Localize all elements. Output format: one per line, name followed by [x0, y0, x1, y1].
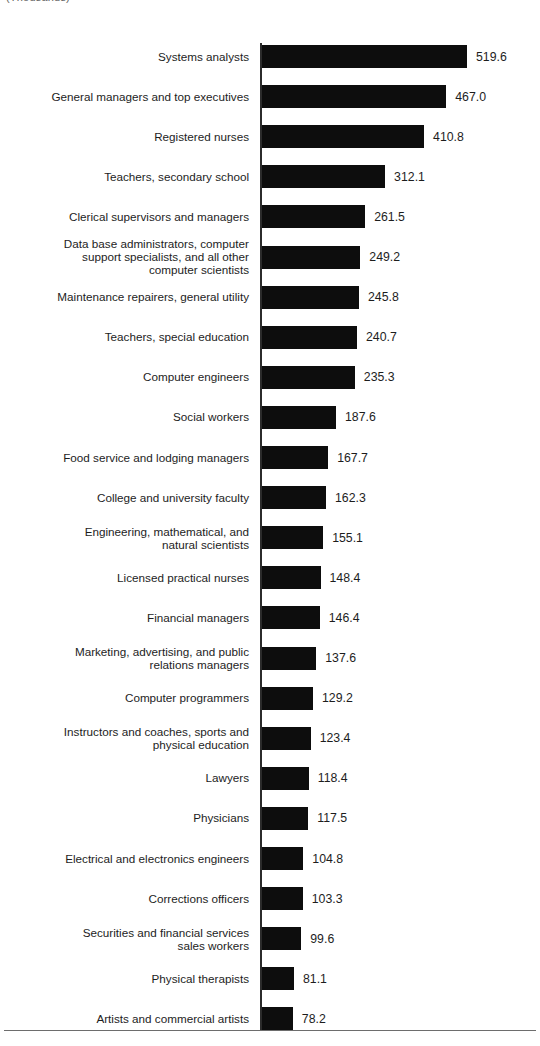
bar-row: Securities and financial services sales …: [0, 927, 540, 950]
category-label: Lawyers: [13, 772, 249, 785]
bar-value-label: 118.4: [318, 771, 348, 785]
category-label: Physical therapists: [13, 972, 249, 985]
bar-row: Social workers187.6: [0, 406, 540, 429]
bar-value-label: 103.3: [312, 892, 343, 906]
bar-value-label: 249.2: [369, 250, 400, 264]
bar: [262, 647, 316, 670]
bar-row: Engineering, mathematical, and natural s…: [0, 526, 540, 549]
bar-value-label: 123.4: [320, 731, 351, 745]
category-label: Licensed practical nurses: [13, 571, 249, 584]
bar: [262, 687, 313, 710]
bar-value-label: 235.3: [364, 370, 395, 384]
bar-row: Systems analysts519.6: [0, 45, 540, 68]
bar-row: Licensed practical nurses148.4: [0, 566, 540, 589]
bar-row: Instructors and coaches, sports and phys…: [0, 727, 540, 750]
bottom-divider: [4, 1030, 536, 1031]
bar-row: Corrections officers103.3: [0, 887, 540, 910]
category-label: Artists and commercial artists: [13, 1012, 249, 1025]
bar-value-label: 78.2: [302, 1012, 326, 1026]
bar-value-label: 410.8: [433, 130, 464, 144]
category-label: General managers and top executives: [13, 90, 249, 103]
category-label: Physicians: [13, 812, 249, 825]
category-label: Computer programmers: [13, 691, 249, 704]
bar-row: Registered nurses410.8: [0, 125, 540, 148]
bar-value-label: 104.8: [312, 852, 343, 866]
bar-row: Physical therapists81.1: [0, 967, 540, 990]
category-label: Teachers, special education: [13, 331, 249, 344]
bar-value-label: 162.3: [335, 491, 366, 505]
bar: [262, 366, 355, 389]
category-label: Computer engineers: [13, 371, 249, 384]
bar: [262, 526, 323, 549]
bar-row: Marketing, advertising, and public relat…: [0, 647, 540, 670]
bar: [262, 727, 311, 750]
bar: [262, 967, 294, 990]
category-label: Registered nurses: [13, 130, 249, 143]
bar: [262, 45, 467, 68]
category-label: Social workers: [13, 411, 249, 424]
category-label: Clerical supervisors and managers: [13, 210, 249, 223]
category-label: Teachers, secondary school: [13, 170, 249, 183]
bar-row: Maintenance repairers, general utility24…: [0, 286, 540, 309]
bar-row: College and university faculty162.3: [0, 486, 540, 509]
bar: [262, 1007, 293, 1030]
bar-row: General managers and top executives467.0: [0, 85, 540, 108]
bar-value-label: 81.1: [303, 972, 327, 986]
bar-row: Teachers, secondary school312.1: [0, 165, 540, 188]
bar-row: Data base administrators, computer suppo…: [0, 246, 540, 269]
bar: [262, 767, 309, 790]
bar-row: Physicians117.5: [0, 807, 540, 830]
category-label: Systems analysts: [13, 50, 249, 63]
bar-value-label: 245.8: [368, 290, 399, 304]
category-label: Electrical and electronics engineers: [13, 852, 249, 865]
bar: [262, 847, 303, 870]
bar: [262, 125, 424, 148]
category-label: Financial managers: [13, 611, 249, 624]
bar: [262, 446, 328, 469]
category-label: Securities and financial services sales …: [13, 925, 249, 951]
bar-chart: Systems analysts519.6General managers an…: [0, 0, 540, 1012]
bar-value-label: 99.6: [310, 932, 334, 946]
bar-row: Artists and commercial artists78.2: [0, 1007, 540, 1030]
bar-value-label: 167.7: [337, 451, 368, 465]
bar: [262, 246, 360, 269]
bar: [262, 205, 365, 228]
bar: [262, 606, 320, 629]
bar: [262, 887, 303, 910]
category-label: Instructors and coaches, sports and phys…: [13, 725, 249, 751]
bar: [262, 85, 446, 108]
bar-row: Computer engineers235.3: [0, 366, 540, 389]
bar-row: Food service and lodging managers167.7: [0, 446, 540, 469]
category-label: Data base administrators, computer suppo…: [13, 237, 249, 277]
bar-value-label: 146.4: [329, 611, 360, 625]
bar-value-label: 312.1: [394, 170, 425, 184]
bar-value-label: 129.2: [322, 691, 353, 705]
bar-row: Financial managers146.4: [0, 606, 540, 629]
bar: [262, 566, 321, 589]
category-label: Engineering, mathematical, and natural s…: [13, 524, 249, 550]
category-label: Corrections officers: [13, 892, 249, 905]
bar: [262, 165, 385, 188]
category-label: Maintenance repairers, general utility: [13, 290, 249, 303]
bar-value-label: 148.4: [330, 571, 361, 585]
bar-value-label: 155.1: [332, 531, 363, 545]
bar-value-label: 117.5: [317, 811, 347, 825]
bar-value-label: 261.5: [374, 210, 405, 224]
category-label: Food service and lodging managers: [13, 451, 249, 464]
bar-value-label: 137.6: [325, 651, 356, 665]
bar-value-label: 240.7: [366, 330, 397, 344]
bar: [262, 927, 301, 950]
bar: [262, 286, 359, 309]
bar-value-label: 187.6: [345, 410, 376, 424]
bar: [262, 326, 357, 349]
bar: [262, 486, 326, 509]
bar-row: Clerical supervisors and managers261.5: [0, 205, 540, 228]
bar: [262, 406, 336, 429]
bar-row: Lawyers118.4: [0, 767, 540, 790]
category-label: College and university faculty: [13, 491, 249, 504]
bar-row: Computer programmers129.2: [0, 687, 540, 710]
category-label: Marketing, advertising, and public relat…: [13, 645, 249, 671]
bar-row: Teachers, special education240.7: [0, 326, 540, 349]
bar-value-label: 467.0: [455, 90, 486, 104]
bar-value-label: 519.6: [476, 50, 507, 64]
